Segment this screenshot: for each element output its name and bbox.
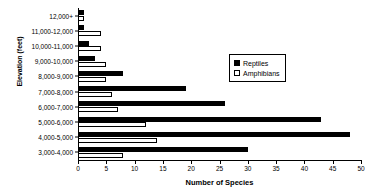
chart-row: 10,000-11,000 [78,38,361,53]
bar-amphibians [78,77,106,82]
y-axis-tick-label: 8,000-9,000 [38,73,73,80]
bar-amphibians [78,31,101,36]
y-axis-tick-label: 7,000-8,000 [38,88,73,95]
x-axis-tick-label: 45 [329,165,336,172]
legend-item-amphibians: Amphibians [234,68,280,78]
x-axis-tick-label: 0 [76,165,80,172]
x-axis-tick [163,160,164,164]
chart-row: 9,000-10,000 [78,54,361,69]
bar-amphibians [78,153,123,158]
x-axis-tick [191,160,192,164]
legend-label-reptiles: Reptiles [243,60,268,67]
bar-reptiles [78,101,225,106]
y-axis-tick-label: 4,000-5,000 [38,134,73,141]
x-axis-tick [106,160,107,164]
x-axis-tick-label: 5 [104,165,108,172]
y-axis-tick-label: 12,000+ [49,12,73,19]
y-axis-tick-label: 10,000-11,000 [32,42,73,49]
x-axis-tick [78,160,79,164]
hollow-square-icon [234,70,240,76]
plot-area: 12,000+11,000-12,00010,000-11,0009,000-1… [78,8,361,160]
y-axis-tick-label: 3,000-4,000 [38,149,73,156]
bar-amphibians [78,62,106,67]
y-axis-title: Elevation (feet) [16,17,23,107]
chart-row: 12,000+ [78,8,361,23]
legend-label-amphibians: Amphibians [243,70,280,77]
bar-amphibians [78,122,146,127]
x-axis-tick [248,160,249,164]
x-axis-title: Number of Species [78,178,361,187]
bar-reptiles [78,56,95,61]
chart-legend: Reptiles Amphibians [229,54,286,82]
bar-reptiles [78,71,123,76]
chart-row: 5,000-6,000 [78,114,361,129]
bar-reptiles [78,41,89,46]
x-axis-tick [135,160,136,164]
x-axis-tick [333,160,334,164]
x-axis-tick [361,160,362,164]
bar-amphibians [78,46,101,51]
x-axis-tick-label: 20 [188,165,195,172]
bar-reptiles [78,25,84,30]
chart-row: 8,000-9,000 [78,69,361,84]
filled-square-icon [234,60,240,66]
x-axis-tick-label: 50 [357,165,364,172]
chart-row: 11,000-12,000 [78,23,361,38]
bar-amphibians [78,107,118,112]
y-axis-tick-label: 11,000-12,000 [32,27,73,34]
chart-row: 7,000-8,000 [78,84,361,99]
bar-reptiles [78,147,248,152]
bar-reptiles [78,117,321,122]
x-axis-tick-label: 25 [216,165,223,172]
y-axis-tick-label: 5,000-6,000 [38,118,73,125]
x-axis-tick-label: 40 [301,165,308,172]
bar-amphibians [78,138,157,143]
y-axis-tick-label: 6,000-7,000 [38,103,73,110]
x-axis-tick [220,160,221,164]
x-axis-tick-label: 10 [131,165,138,172]
bar-reptiles [78,132,350,137]
chart-row: 4,000-5,000 [78,130,361,145]
chart-row: 6,000-7,000 [78,99,361,114]
legend-item-reptiles: Reptiles [234,58,280,68]
x-axis-tick [304,160,305,164]
x-axis-tick-label: 15 [159,165,166,172]
bar-reptiles [78,86,186,91]
chart-row: 3,000-4,000 [78,145,361,160]
x-axis-tick-label: 30 [244,165,251,172]
x-axis-tick [276,160,277,164]
y-axis-tick-label: 9,000-10,000 [35,58,73,65]
bar-amphibians [78,16,84,21]
x-axis-tick-label: 35 [272,165,279,172]
bar-amphibians [78,92,112,97]
bar-reptiles [78,10,84,15]
species-elevation-bar-chart: Elevation (feet) 12,000+11,000-12,00010,… [0,0,368,194]
